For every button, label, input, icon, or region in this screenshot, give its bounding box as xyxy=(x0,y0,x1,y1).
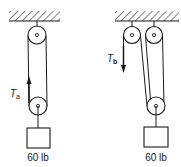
weight-b xyxy=(144,127,168,147)
top-pulley-a xyxy=(28,26,46,44)
diagram-b: Tb 60 lb xyxy=(107,11,179,163)
tension-arrow-up-icon xyxy=(27,76,32,103)
weight-a xyxy=(27,128,50,148)
rope-a-right xyxy=(46,36,47,106)
tension-label-b: Tb xyxy=(107,53,117,65)
top-pulley-b-1 xyxy=(124,27,141,44)
tension-label-a: Ta xyxy=(10,88,20,100)
weight-label-a: 60 lb xyxy=(27,152,49,163)
pulley-diagrams: Ta 60 lb xyxy=(0,0,181,167)
ceiling-a xyxy=(9,11,60,21)
rope-b-3 xyxy=(163,36,165,106)
tension-arrow-down-icon xyxy=(121,46,126,73)
ceiling-b xyxy=(115,11,179,21)
diagram-a: Ta 60 lb xyxy=(9,11,60,163)
weight-label-b: 60 lb xyxy=(145,152,167,163)
top-pulley-b-2 xyxy=(146,27,163,44)
